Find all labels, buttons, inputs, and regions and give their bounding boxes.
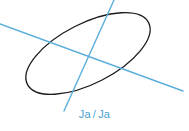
minor-axis-line	[64, 0, 114, 111]
ellipse-axes-figure: Ja/Ja	[0, 0, 189, 131]
figure-canvas	[0, 0, 189, 131]
major-axis-line	[0, 24, 183, 91]
